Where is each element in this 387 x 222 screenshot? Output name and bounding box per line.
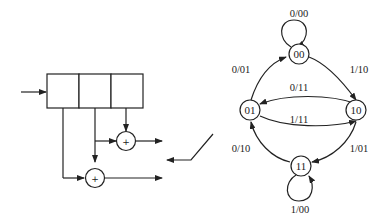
state-label: 01: [245, 104, 256, 116]
register-cell-2: [79, 74, 111, 108]
transform-arrow: [167, 134, 213, 160]
edge-11-01: [251, 122, 290, 162]
convolutional-encoder: + +: [21, 74, 162, 188]
adder-symbol: +: [91, 174, 99, 184]
transition-label: 0/10: [232, 143, 251, 154]
edge-10-11: [312, 122, 356, 162]
diagram-canvas: + + 0/00 0/01 1/10 0/11 1/11 0/10 1/01 1…: [0, 0, 387, 222]
transition-label: 1/01: [350, 143, 369, 154]
transition-label: 1/10: [350, 64, 369, 75]
edge-10-01: [260, 97, 357, 105]
transition-label: 0/00: [290, 8, 309, 19]
self-loop-00: [282, 20, 307, 47]
state-label: 10: [351, 104, 363, 116]
state-label: 11: [296, 160, 307, 172]
register-cell-1: [47, 74, 79, 108]
transition-label: 1/11: [290, 114, 308, 125]
state-diagram: 0/00 0/01 1/10 0/11 1/11 0/10 1/01 1/00 …: [232, 8, 369, 215]
register-cell-3: [111, 74, 143, 108]
self-loop-11: [287, 175, 312, 201]
state-label: 00: [294, 48, 306, 60]
transition-label: 0/11: [290, 82, 308, 93]
adder-symbol: +: [122, 137, 130, 147]
edge-01-00: [251, 57, 286, 100]
transition-label: 0/01: [232, 64, 251, 75]
transition-label: 1/00: [291, 204, 310, 215]
